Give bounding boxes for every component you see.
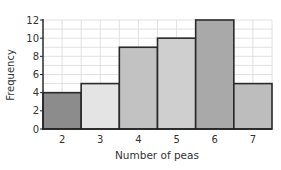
bar-7 <box>234 84 272 129</box>
y-axis-label: Frequency <box>5 49 16 101</box>
bar-4 <box>119 47 157 129</box>
y-tick-label: 4 <box>33 87 39 98</box>
x-tick-label: 4 <box>135 134 141 145</box>
x-tick-label: 2 <box>59 134 65 145</box>
bar-6 <box>196 20 234 129</box>
y-axis-ticks: 024681012 <box>26 15 43 135</box>
y-tick-label: 8 <box>33 51 39 62</box>
x-tick-label: 6 <box>212 134 218 145</box>
y-tick-label: 2 <box>33 105 39 116</box>
y-tick-label: 12 <box>26 15 39 26</box>
y-tick-label: 0 <box>33 124 39 135</box>
x-tick-label: 5 <box>173 134 179 145</box>
x-tick-label: 3 <box>97 134 103 145</box>
y-tick-label: 10 <box>26 33 39 44</box>
bar-3 <box>81 84 119 129</box>
histogram-chart: 024681012 234567 Number of peas Frequenc… <box>0 0 281 170</box>
y-tick-label: 6 <box>33 69 39 80</box>
x-axis-label: Number of peas <box>115 149 199 161</box>
x-axis-ticks: 234567 <box>59 134 256 145</box>
x-tick-label: 7 <box>250 134 256 145</box>
bar-5 <box>158 38 196 129</box>
bar-2 <box>43 93 81 129</box>
